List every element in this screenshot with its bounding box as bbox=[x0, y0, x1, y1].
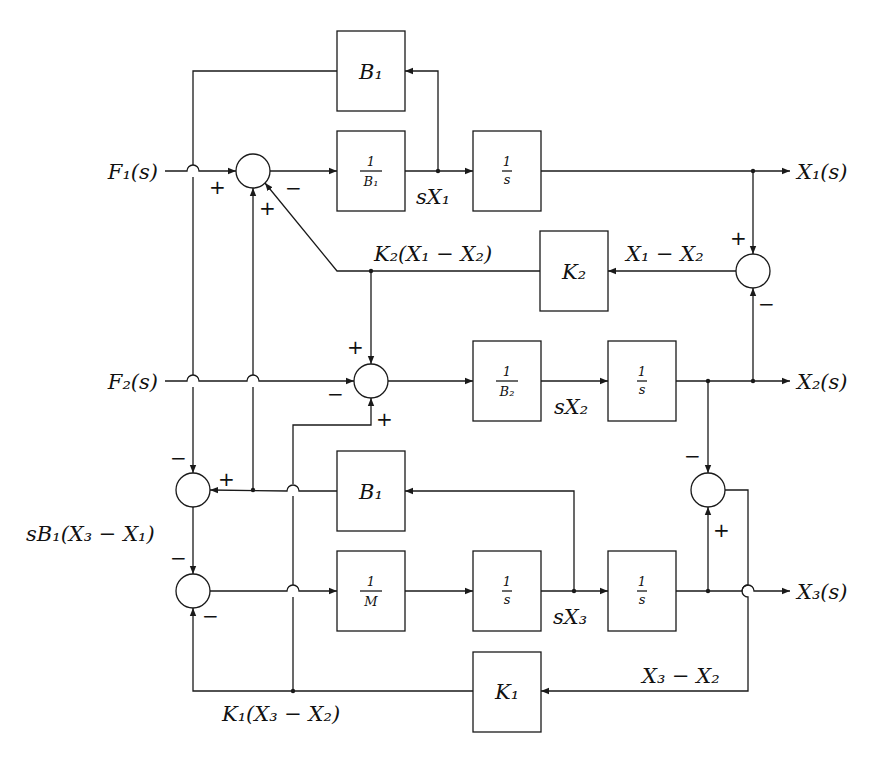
label-int3a-num: 1 bbox=[503, 574, 511, 589]
input-f2: F₂(s) bbox=[107, 370, 158, 394]
label-int1-den: s bbox=[504, 172, 511, 187]
sign-sumr2-top: − bbox=[684, 444, 701, 468]
label-inv-b1-den: B₁ bbox=[363, 174, 379, 189]
input-f1: F₁(s) bbox=[107, 160, 158, 184]
signal-sx2: sX₂ bbox=[554, 395, 588, 419]
wire-f2-to-sum2 bbox=[165, 375, 354, 381]
sign-sumr1-top: + bbox=[730, 226, 747, 250]
junction-k1 bbox=[291, 689, 295, 693]
wire-sumb-to-invm bbox=[210, 585, 337, 591]
output-x3: X₃(s) bbox=[795, 580, 848, 604]
summer-2 bbox=[354, 364, 388, 398]
sign-sumr1-bottom: − bbox=[758, 292, 775, 316]
label-inv-b2-num: 1 bbox=[503, 364, 511, 379]
sign-sumr2-bottom: + bbox=[713, 518, 730, 542]
output-x1: X₁(s) bbox=[795, 160, 848, 184]
signal-sb1-term: sB₁(X₃ − X₁) bbox=[26, 522, 155, 546]
wire-b1top-left bbox=[193, 71, 337, 473]
label-int1-num: 1 bbox=[503, 154, 511, 169]
label-inv-b1-num: 1 bbox=[367, 154, 375, 169]
junction-sx3 bbox=[572, 589, 576, 593]
wire-sx1-to-b1top bbox=[405, 71, 438, 171]
sign-suml-top: − bbox=[170, 446, 187, 470]
label-int2-den: s bbox=[639, 382, 646, 397]
summer-1 bbox=[236, 154, 270, 188]
wire-int3b-to-x3 bbox=[676, 585, 790, 591]
signal-x3-minus-x2: X₃ − X₂ bbox=[640, 664, 720, 688]
label-inv-m-num: 1 bbox=[367, 574, 375, 589]
wire-k1-to-sum2 bbox=[293, 398, 371, 691]
output-x2: X₂(s) bbox=[795, 370, 848, 394]
sign-sum2-bottom: + bbox=[376, 407, 393, 431]
junction-x1 bbox=[751, 169, 755, 173]
label-int3a-den: s bbox=[504, 592, 511, 607]
label-k1: K₁ bbox=[494, 680, 519, 704]
signal-sx3: sX₃ bbox=[553, 605, 587, 629]
summer-right-2 bbox=[691, 473, 725, 507]
signal-x1-minus-x2: X₁ − X₂ bbox=[624, 242, 704, 266]
label-k2: K₂ bbox=[561, 260, 586, 284]
label-b1-top: B₁ bbox=[358, 60, 383, 84]
sign-sum1-left: + bbox=[209, 175, 226, 199]
signal-k2-term: K₂(X₁ − X₂) bbox=[373, 242, 492, 266]
label-inv-b2-den: B₂ bbox=[499, 384, 515, 399]
summer-right-1 bbox=[736, 254, 770, 288]
label-inv-m-den: M bbox=[363, 594, 378, 609]
label-int3b-num: 1 bbox=[638, 574, 646, 589]
label-b1-low: B₁ bbox=[358, 480, 383, 504]
summer-left bbox=[176, 473, 210, 507]
sign-sum1-diag: − bbox=[285, 176, 302, 200]
signal-k1-term: K₁(X₃ − X₂) bbox=[221, 702, 340, 726]
summer-bottom bbox=[176, 574, 210, 608]
junction-x3 bbox=[706, 589, 710, 593]
junction-b1low bbox=[251, 488, 255, 492]
junction-x2b bbox=[751, 379, 755, 383]
sign-suml-right: + bbox=[218, 467, 235, 491]
sign-sum2-top: + bbox=[347, 335, 364, 359]
junction-sx1 bbox=[436, 169, 440, 173]
sign-sum1-bottom: + bbox=[259, 196, 276, 220]
sign-sumb-bottom: − bbox=[202, 604, 219, 628]
sign-sum2-left: − bbox=[327, 382, 344, 406]
label-int3b-den: s bbox=[639, 592, 646, 607]
signal-sx1: sX₁ bbox=[416, 185, 450, 209]
wire-k1-to-sumb bbox=[193, 608, 473, 691]
block-diagram: B₁ 1 B₁ 1 s K₂ 1 B₂ 1 s B₁ 1 M 1 s 1 s K… bbox=[0, 0, 888, 763]
label-int2-num: 1 bbox=[638, 364, 646, 379]
junction-k2 bbox=[369, 269, 373, 273]
sign-sumb-top: − bbox=[170, 546, 187, 570]
junction-x2a bbox=[706, 379, 710, 383]
wire-f1-to-sum1 bbox=[165, 165, 236, 171]
